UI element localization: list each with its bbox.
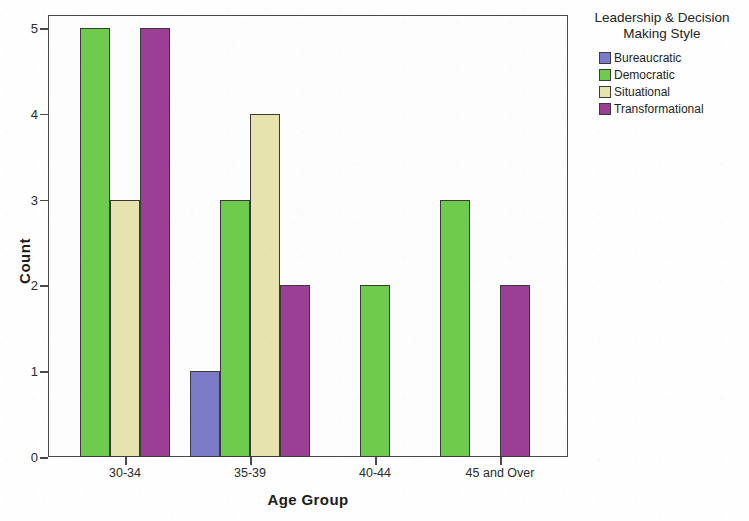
- bar: [220, 200, 250, 457]
- legend-title-line-1: Leadership & Decision: [577, 10, 747, 26]
- x-tick-label: 40-44: [359, 466, 391, 480]
- y-tick-label: 0: [20, 450, 38, 465]
- bar: [440, 200, 470, 457]
- plot-area: [48, 15, 568, 457]
- x-tick-mark: [500, 457, 502, 465]
- legend-item-label: Transformational: [614, 102, 704, 116]
- legend-item: Situational: [599, 84, 747, 100]
- bar: [110, 200, 140, 457]
- legend-swatch-icon: [599, 86, 611, 98]
- bar: [140, 28, 170, 457]
- x-tick-label: 30-34: [109, 466, 141, 480]
- legend-item-label: Democratic: [614, 68, 675, 82]
- x-tick-label: 45 and Over: [466, 466, 535, 480]
- legend-item: Democratic: [599, 67, 747, 83]
- y-tick-mark: [40, 457, 48, 459]
- legend-title: Leadership & Decision Making Style: [577, 10, 747, 42]
- y-axis-title: Count: [16, 238, 33, 284]
- y-tick-label: 5: [20, 21, 38, 36]
- legend-swatch-icon: [599, 69, 611, 81]
- bar: [280, 285, 310, 457]
- legend-item-label: Bureaucratic: [614, 51, 681, 65]
- legend-swatch-icon: [599, 103, 611, 115]
- chart-screenshot: Count 012345 30-3435-3940-4445 and Over …: [0, 0, 749, 521]
- bar: [80, 28, 110, 457]
- y-tick-mark: [40, 114, 48, 116]
- bar: [250, 114, 280, 457]
- legend-items: BureaucraticDemocraticSituationalTransfo…: [599, 50, 747, 117]
- x-tick-mark: [250, 457, 252, 465]
- y-tick-mark: [40, 200, 48, 202]
- x-tick-mark: [375, 457, 377, 465]
- y-tick-label: 2: [20, 278, 38, 293]
- legend-swatch-icon: [599, 52, 611, 64]
- y-tick-label: 3: [20, 192, 38, 207]
- y-tick-mark: [40, 28, 48, 30]
- y-tick-mark: [40, 371, 48, 373]
- bar: [500, 285, 530, 457]
- y-tick-label: 4: [20, 106, 38, 121]
- legend-item: Transformational: [599, 101, 747, 117]
- bar: [190, 371, 220, 457]
- x-tick-label: 35-39: [234, 466, 266, 480]
- x-axis-title: Age Group: [48, 491, 568, 508]
- y-tick-label: 1: [20, 364, 38, 379]
- legend-item: Bureaucratic: [599, 50, 747, 66]
- y-tick-mark: [40, 285, 48, 287]
- legend: Leadership & Decision Making Style Burea…: [577, 10, 747, 118]
- legend-item-label: Situational: [614, 85, 670, 99]
- x-tick-mark: [125, 457, 127, 465]
- bar: [360, 285, 390, 457]
- legend-title-line-2: Making Style: [577, 26, 747, 42]
